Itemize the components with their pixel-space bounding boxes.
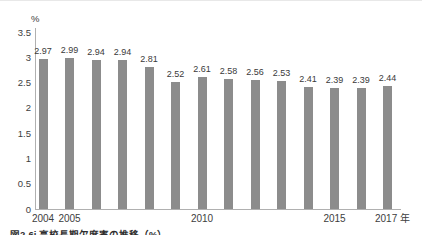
bar-2008 (145, 67, 154, 209)
bar-2015 (330, 88, 339, 209)
bar-chart: % 3.532.521.510.50 2.972.992.942.942.812… (0, 0, 422, 235)
y-axis-unit-label: % (31, 13, 39, 24)
y-tick-1.5: 1.5 (0, 128, 31, 139)
y-tick-3.5: 3.5 (0, 27, 31, 38)
chart-caption: 図2-6i 高校長期欠席率の推移（%） (10, 227, 167, 235)
y-tick-2: 2 (0, 102, 31, 113)
y-tick-1: 1 (0, 153, 31, 164)
bar-value-label-2008: 2.81 (133, 54, 165, 65)
x-axis-line (35, 209, 401, 210)
bar-2004 (39, 59, 48, 209)
bar-2009 (171, 82, 180, 209)
bar-2006 (92, 60, 101, 209)
bar-2005 (65, 58, 74, 209)
x-tick-2005: 2005 (48, 213, 92, 225)
y-tick-2.5: 2.5 (0, 77, 31, 88)
bar-2012 (251, 80, 260, 209)
bar-2011 (224, 79, 233, 209)
x-tick-2010: 2010 (180, 213, 224, 225)
bar-2014 (304, 87, 313, 209)
x-tick-2015: 2015 (313, 213, 357, 225)
y-tick-0.5: 0.5 (0, 178, 31, 189)
bar-2013 (277, 81, 286, 209)
bar-value-label-2017: 2.44 (372, 73, 404, 84)
bar-2010 (198, 77, 207, 209)
bar-2017 (383, 86, 392, 209)
bar-2007 (118, 60, 127, 209)
x-tick-2017: 2017 年 (371, 213, 415, 225)
bar-2016 (357, 88, 366, 209)
